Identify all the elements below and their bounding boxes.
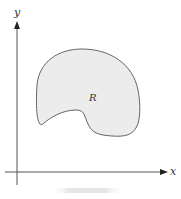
- y-axis-arrow-icon: [14, 21, 20, 29]
- x-axis-arrow-icon: [160, 169, 168, 175]
- x-axis-label: x: [170, 165, 177, 178]
- shadow-bar: [50, 188, 125, 193]
- x-axis: x: [5, 165, 177, 178]
- region-label: R: [88, 92, 97, 103]
- region-diagram: y x R: [0, 0, 181, 199]
- y-axis-label: y: [13, 6, 21, 19]
- y-axis: y: [13, 6, 21, 185]
